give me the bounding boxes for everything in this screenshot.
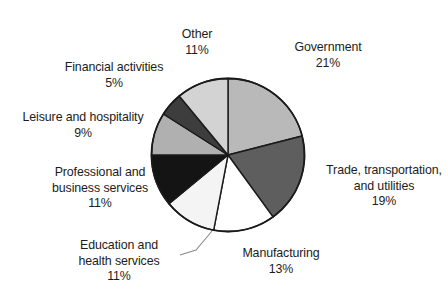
slice-label-financial-percent: 5%	[46, 76, 182, 92]
slice-label-financial-activities: Financial activities 5%	[46, 60, 182, 91]
slice-label-financial-line1: Financial activities	[46, 60, 182, 76]
pie-chart-figure: Government 21% Trade, transportation, an…	[0, 0, 448, 306]
slice-label-trade-transportation-utilities: Trade, transportation, and utilities 19%	[320, 163, 448, 210]
slice-label-trade-line1: Trade, transportation,	[320, 163, 448, 179]
slice-label-government-percent: 21%	[272, 56, 384, 72]
slice-label-education-percent: 11%	[58, 269, 180, 285]
slice-label-government-line1: Government	[272, 40, 384, 56]
slice-label-professional-line1: Professional and	[34, 165, 166, 181]
slice-label-manufacturing-percent: 13%	[222, 262, 340, 278]
slice-label-education-line1: Education and	[58, 238, 180, 254]
slice-label-trade-percent: 19%	[320, 194, 448, 210]
slice-label-professional-business-services: Professional and business services 11%	[34, 165, 166, 212]
slice-label-professional-percent: 11%	[34, 196, 166, 212]
slice-label-government: Government 21%	[272, 40, 384, 71]
slice-label-leisure-hospitality: Leisure and hospitality 9%	[12, 110, 154, 141]
slice-label-trade-line2: and utilities	[320, 179, 448, 195]
slice-label-leisure-line1: Leisure and hospitality	[12, 110, 154, 126]
slice-label-education-line2: health services	[58, 254, 180, 270]
slice-label-manufacturing-line1: Manufacturing	[222, 246, 340, 262]
slice-label-other-percent: 11%	[154, 43, 240, 59]
slice-label-education-health-services: Education and health services 11%	[58, 238, 180, 285]
slice-label-professional-line2: business services	[34, 181, 166, 197]
slice-label-leisure-percent: 9%	[12, 126, 154, 142]
slice-label-other-line1: Other	[154, 27, 240, 43]
slice-label-other: Other 11%	[154, 27, 240, 58]
education-leader-line	[180, 231, 212, 255]
slice-label-manufacturing: Manufacturing 13%	[222, 246, 340, 277]
